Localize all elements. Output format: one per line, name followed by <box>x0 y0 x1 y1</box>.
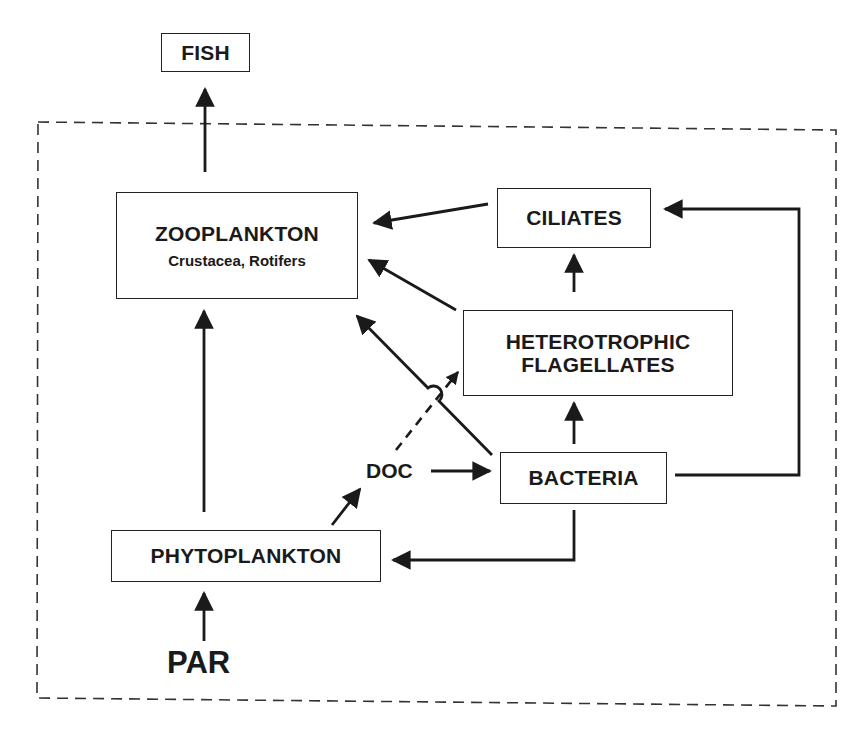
arrow-ciliates-to-zooplankton <box>374 204 488 223</box>
diagram-canvas <box>0 0 867 734</box>
node-bacteria: BACTERIA <box>500 452 667 504</box>
zooplankton-sublabel: Crustacea, Rotifers <box>168 253 306 270</box>
doc-label: DOC <box>366 459 413 483</box>
node-zooplankton: ZOOPLANKTON Crustacea, Rotifers <box>116 192 358 299</box>
arrow-phytoplankton-to-doc <box>332 489 360 525</box>
zooplankton-label: ZOOPLANKTON <box>155 222 319 245</box>
node-ciliates: CILIATES <box>497 188 651 248</box>
node-phytoplankton: PHYTOPLANKTON <box>111 530 381 582</box>
bacteria-label: BACTERIA <box>528 466 638 489</box>
phytoplankton-label: PHYTOPLANKTON <box>151 544 342 567</box>
node-fish: FISH <box>161 33 250 72</box>
flagellates-label-line1: HETEROTROPHIC <box>506 330 691 353</box>
node-heterotrophic-flagellates: HETEROTROPHIC FLAGELLATES <box>463 310 733 396</box>
arrow-flagellates-to-zooplankton <box>369 260 456 310</box>
arrow-bacteria-to-phytoplankton <box>393 510 574 560</box>
ciliates-label: CILIATES <box>526 206 622 229</box>
flagellates-label-line2: FLAGELLATES <box>521 353 674 376</box>
fish-label: FISH <box>181 41 230 64</box>
par-label: PAR <box>167 645 230 681</box>
